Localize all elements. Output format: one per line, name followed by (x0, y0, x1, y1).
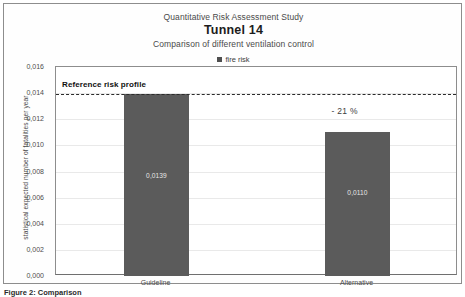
chart-legend: fire risk (4, 55, 463, 64)
plot-area: 0,0139 0,0110 Reference risk profile - 2… (55, 66, 457, 275)
gridline (56, 224, 456, 225)
bar-value-label: 0,0139 (124, 172, 189, 179)
delta-annotation: - 21 % (332, 106, 358, 116)
chart-subtitle: Comparison of different ventilation cont… (4, 38, 463, 50)
figure-frame: Quantitative Risk Assessment Study Tunne… (3, 3, 462, 284)
x-axis-label-alternative: Alternative (297, 279, 417, 286)
y-axis-tick-label: 0,014 (0, 89, 44, 96)
chart-title-block: Quantitative Risk Assessment Study Tunne… (4, 12, 463, 50)
bar-value-label: 0,0110 (325, 189, 390, 196)
gridline (56, 119, 456, 120)
chart-title: Tunnel 14 (4, 23, 463, 38)
gridline (56, 172, 456, 173)
legend-item-label: fire risk (225, 55, 249, 64)
y-axis-tick-label: 0,004 (0, 219, 44, 226)
y-axis-tick-label: 0,002 (0, 245, 44, 252)
gridline (56, 145, 456, 146)
gridline (56, 250, 456, 251)
y-axis-tick-label: 0,008 (0, 167, 44, 174)
y-axis-tick-label: 0,012 (0, 115, 44, 122)
x-axis-label-guideline: Guideline (96, 279, 216, 286)
y-axis-tick-label: 0,010 (0, 141, 44, 148)
bar-guideline[interactable]: 0,0139 (124, 94, 189, 276)
y-axis-tick-label: 0,006 (0, 193, 44, 200)
y-axis-tick-label: 0,000 (0, 272, 44, 279)
chart-supertitle: Quantitative Risk Assessment Study (4, 12, 463, 23)
reference-risk-profile-line (56, 94, 456, 95)
reference-risk-profile-label: Reference risk profile (62, 80, 146, 89)
figure-caption: Figure 2: Comparison (4, 288, 82, 297)
bar-alternative[interactable]: 0,0110 (325, 132, 390, 276)
gridline (56, 198, 456, 199)
legend-swatch-icon (217, 57, 222, 62)
y-axis-tick-label: 0,016 (0, 63, 44, 70)
